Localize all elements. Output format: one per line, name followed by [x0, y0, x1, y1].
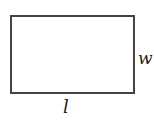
- length-label: l: [63, 98, 69, 116]
- width-label: w: [138, 50, 153, 67]
- rectangle-shape: [10, 15, 135, 94]
